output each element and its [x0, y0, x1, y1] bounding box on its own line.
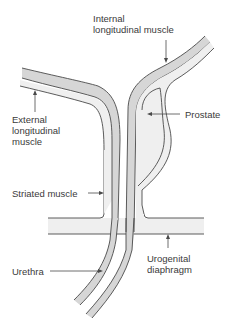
label-urogenital-diaphragm: Urogenital diaphragm — [147, 253, 192, 275]
urogenital-diaphragm-arrow — [166, 234, 170, 248]
striated-muscle-arrow — [88, 191, 104, 195]
label-internal-longitudinal-muscle: Internal longitudinal muscle — [93, 13, 174, 35]
internal-longitudinal-arrow — [164, 40, 168, 63]
label-urethra: Urethra — [12, 266, 44, 277]
label-external-longitudinal-muscle: External longitudinal muscle — [12, 114, 60, 147]
label-prostate: Prostate — [185, 109, 220, 120]
external-longitudinal-arrow — [33, 90, 37, 112]
urethra-arrow — [50, 269, 103, 273]
urethra-anatomy-diagram — [0, 0, 233, 333]
label-striated-muscle: Striated muscle — [12, 188, 77, 199]
